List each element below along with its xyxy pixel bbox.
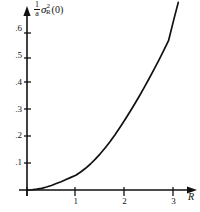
- y-tick-label: .3: [9, 105, 22, 114]
- x-axis-arrowhead: [187, 187, 197, 194]
- y-axis-arrowhead: [23, 6, 30, 16]
- x-tick-label: 1: [68, 197, 84, 206]
- x-tick-label: 2: [117, 197, 133, 206]
- y-tick-label: .5: [9, 51, 22, 60]
- plot-canvas: [0, 0, 200, 212]
- x-axis-ticks: [27, 187, 173, 196]
- y-tick-label: .6: [9, 24, 22, 33]
- figure-plot-area: 1 a σ 2 R (0) R: [0, 0, 200, 212]
- data-curve: [27, 2, 178, 190]
- x-tick-label: 3: [165, 197, 181, 206]
- y-tick-label: .2: [9, 131, 22, 140]
- y-tick-label: .1: [9, 158, 22, 167]
- y-tick-label: .4: [9, 78, 22, 87]
